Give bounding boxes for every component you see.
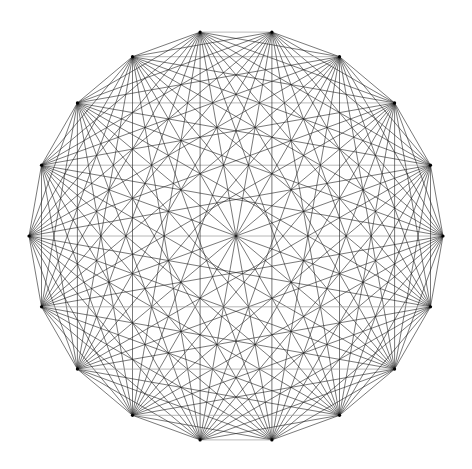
- graph-vertex: [76, 368, 79, 371]
- figure-container: [0, 0, 472, 469]
- graph-vertex: [393, 368, 396, 371]
- graph-vertex: [76, 101, 79, 104]
- graph-vertex: [441, 234, 444, 237]
- graph-vertex: [131, 55, 134, 58]
- graph-vertex: [429, 305, 432, 308]
- graph-vertex: [393, 101, 396, 104]
- graph-vertex: [40, 164, 43, 167]
- graph-vertex: [429, 164, 432, 167]
- graph-vertex: [199, 438, 202, 441]
- graph-vertex: [338, 55, 341, 58]
- graph-vertex: [27, 234, 30, 237]
- graph-vertex: [131, 414, 134, 417]
- graph-vertex: [270, 30, 273, 33]
- complete-graph-figure: [0, 0, 472, 469]
- graph-vertex: [338, 414, 341, 417]
- graph-vertex: [270, 438, 273, 441]
- graph-vertex: [199, 30, 202, 33]
- graph-vertex: [40, 305, 43, 308]
